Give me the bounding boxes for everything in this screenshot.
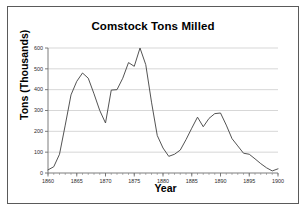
- x-tick-label: 1865: [64, 178, 90, 184]
- x-tick-label: 1860: [35, 178, 61, 184]
- y-tick-label: 200: [21, 128, 43, 134]
- axis-major-ticks: [45, 48, 278, 177]
- x-tick-label: 1870: [93, 178, 119, 184]
- y-tick-label: 100: [21, 149, 43, 155]
- gridlines: [48, 48, 278, 152]
- x-tick-label: 1890: [208, 178, 234, 184]
- chart-container: Comstock Tons Milled Tons (Thousands) Ye…: [7, 6, 299, 204]
- x-tick-label: 1900: [265, 178, 291, 184]
- y-tick-label: 300: [21, 107, 43, 113]
- y-tick-label: 0: [21, 170, 43, 176]
- x-tick-label: 1895: [236, 178, 262, 184]
- chart-inner: Comstock Tons Milled Tons (Thousands) Ye…: [8, 7, 298, 203]
- x-tick-label: 1880: [150, 178, 176, 184]
- y-tick-label: 500: [21, 66, 43, 72]
- x-tick-label: 1875: [121, 178, 147, 184]
- y-tick-label: 600: [21, 45, 43, 51]
- y-tick-label: 400: [21, 86, 43, 92]
- plot-area: [8, 7, 298, 203]
- x-tick-label: 1885: [179, 178, 205, 184]
